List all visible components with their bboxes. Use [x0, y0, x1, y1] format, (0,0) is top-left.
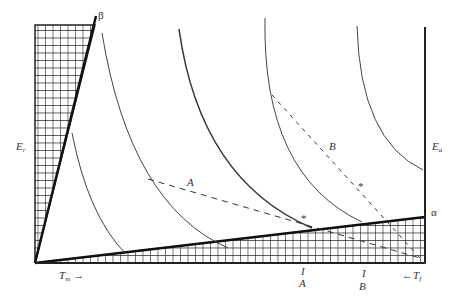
star-marker-A: *: [301, 212, 307, 224]
path-B-label: B: [329, 140, 336, 152]
path-A-label: A: [186, 176, 194, 188]
T-m-label: Tm→: [59, 269, 84, 283]
alpha-label: α: [431, 206, 437, 218]
beta-label: β: [98, 9, 104, 21]
T-f-label: ←Tf: [402, 269, 422, 283]
tick-B-label: B: [359, 280, 366, 292]
isotherm-curve-2: [102, 33, 228, 248]
isotherm-curve-3: [179, 29, 312, 228]
diagram-canvas: * * β α Er Ea Tm→ ←Tf A B I A I B: [0, 0, 459, 302]
tick-A-label: A: [298, 277, 306, 289]
tick-A-mark: I: [300, 265, 306, 277]
isotherm-curve-1: [72, 133, 125, 253]
star-marker-B: *: [358, 180, 364, 192]
E-a-label: Ea: [431, 140, 443, 154]
tick-B-mark: I: [361, 267, 367, 279]
isotherm-curve-4: [265, 18, 362, 222]
E-r-label: Er: [15, 140, 26, 154]
isotherm-curve-5: [357, 26, 423, 170]
